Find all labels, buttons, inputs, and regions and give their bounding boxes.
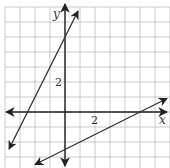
line-2 [35, 99, 167, 165]
x-axis-label: x [159, 113, 166, 127]
y-tick-label-2: 2 [55, 76, 62, 89]
plotted-lines [9, 11, 167, 164]
line-1 [9, 11, 78, 149]
grid [5, 7, 170, 168]
coordinate-plane: y x 2 2 [0, 0, 170, 168]
x-tick-label-2: 2 [91, 114, 98, 127]
graph-canvas: y x 2 2 [0, 0, 170, 168]
y-axis-label: y [52, 7, 60, 21]
